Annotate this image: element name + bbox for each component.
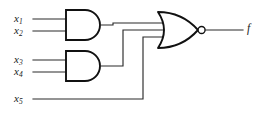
and-gate-2: [66, 51, 100, 81]
input-label-x2: x2: [14, 25, 23, 38]
logic-circuit-figure: x1 x2 x3 x4 x5 f: [0, 0, 269, 115]
and-gate-1: [66, 10, 100, 40]
inversion-bubble-icon: [198, 27, 205, 34]
wire-and2-to-nor: [100, 30, 163, 66]
output-label-f: f: [247, 23, 250, 35]
input-label-x5: x5: [14, 93, 23, 106]
wire-and1-to-nor: [100, 23, 163, 25]
input-label-x4: x4: [14, 66, 23, 79]
circuit-schematic: [0, 0, 269, 115]
nor-gate: [158, 12, 198, 48]
